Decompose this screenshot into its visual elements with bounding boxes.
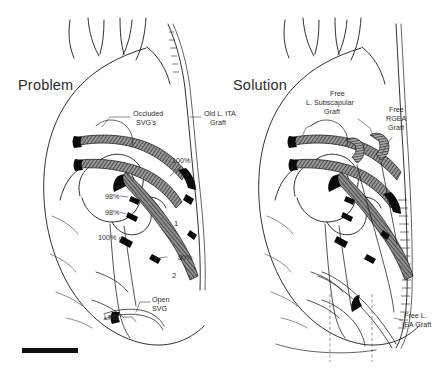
medical-illustration-figure: Problem OccludedSVG's Old L. ITAGraft 10… [0, 0, 447, 372]
label-stenosis-98-b: 98% [105, 208, 120, 217]
scale-bar [22, 348, 78, 353]
label-vessel-marker-2: 2 [172, 271, 176, 280]
label-lpd: LPD [104, 313, 118, 322]
label-stenosis-100-lower: 100% [98, 233, 117, 242]
label-stenosis-80: 80% [178, 253, 193, 262]
label-open-svg: OpenSVG [152, 295, 170, 313]
label-stenosis-98-a: 98% [105, 192, 120, 201]
label-free-rgea-graft: FreeRGEAGraft [386, 105, 407, 132]
label-stenosis-100-upper: 100% [172, 156, 191, 165]
figure-canvas: Problem OccludedSVG's Old L. ITAGraft 10… [0, 0, 447, 372]
label-vessel-marker-1: 1 [174, 219, 178, 228]
panel-title-solution: Solution [233, 77, 287, 93]
panel-title-problem: Problem [18, 77, 73, 93]
